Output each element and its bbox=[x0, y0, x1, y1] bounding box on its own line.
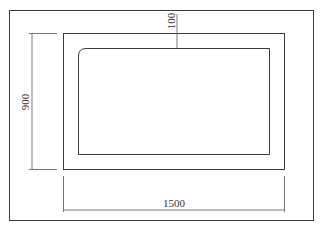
drawing-canvas: 900 1500 100 bbox=[0, 0, 323, 232]
width-dimension-label: 1500 bbox=[163, 197, 186, 209]
outer-outline bbox=[64, 34, 285, 170]
frame-border bbox=[10, 11, 314, 221]
height-dimension-label: 900 bbox=[19, 93, 31, 110]
inner-basin bbox=[79, 49, 270, 155]
thickness-dimension-label: 100 bbox=[165, 12, 177, 29]
